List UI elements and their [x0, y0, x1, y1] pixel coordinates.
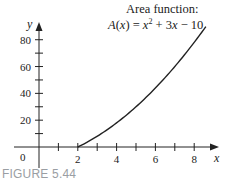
y-tick-label: 20 — [20, 114, 32, 126]
x-tick-label: 2 — [75, 153, 81, 165]
y-axis-label: y — [26, 17, 33, 31]
chart-subtitle: A(x) = x2 + 3x − 10 — [108, 17, 203, 33]
x-tick-label: 4 — [114, 153, 120, 165]
y-tick-label: 40 — [20, 87, 32, 99]
y-tick-label: 80 — [20, 34, 32, 46]
area-function-curve — [78, 27, 206, 147]
origin-label: 0 — [20, 151, 26, 163]
x-axis-label: x — [213, 151, 220, 165]
y-tick-label: 60 — [20, 61, 32, 73]
figure-caption: FIGURE 5.44 — [2, 167, 76, 181]
y-axis-arrow-icon — [36, 22, 43, 31]
x-axis-arrow-icon — [210, 144, 219, 151]
x-tick-label: 8 — [191, 153, 197, 165]
x-tick-label: 6 — [153, 153, 159, 165]
axis-labels: x y 0 — [20, 17, 220, 165]
chart-title: Area function: — [126, 2, 199, 17]
function-formula: A(x) = x2 + 3x − 10 — [108, 18, 203, 32]
y-ticks: 20406080 — [20, 34, 43, 134]
